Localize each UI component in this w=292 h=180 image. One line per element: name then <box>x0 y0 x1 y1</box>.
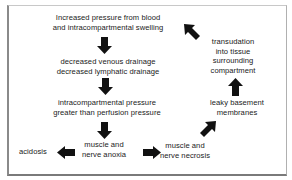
node-leaky-membranes: leaky basement membranes <box>210 98 264 118</box>
node-text-line: acidosis <box>19 147 47 157</box>
arrow-up-icon <box>228 78 243 96</box>
arrow-down-icon <box>97 37 112 54</box>
node-text-line: intracompartmental pressure <box>53 98 161 108</box>
node-text-line: decreased lymphatic drainage <box>57 67 160 77</box>
node-text-line: surrounding <box>211 56 256 66</box>
node-increased-pressure: Increased pressure from blood and intrac… <box>53 13 163 33</box>
node-text-line: Increased pressure from blood <box>53 13 163 23</box>
node-text-line: leaky basement <box>210 98 264 108</box>
node-text-line: greater than perfusion pressure <box>53 108 161 118</box>
node-text-line: transudation <box>211 37 256 47</box>
node-text-line: compartment <box>211 66 256 76</box>
node-intracompartmental-pressure: intracompartmental pressure greater than… <box>53 98 161 118</box>
node-text-line: into tissue <box>211 47 256 57</box>
node-text-line: decreased venous drainage <box>57 57 160 67</box>
node-decreased-drainage: decreased venous drainage decreased lymp… <box>57 57 160 77</box>
node-acidosis: acidosis <box>19 147 47 157</box>
node-necrosis: muscle and nerve necrosis <box>160 141 210 161</box>
node-text-line: and intracompartmental swelling <box>53 23 163 33</box>
node-transudation: transudation into tissue surrounding com… <box>211 37 256 75</box>
arrow-up-right-icon <box>200 121 217 138</box>
node-text-line: nerve necrosis <box>160 151 210 161</box>
arrow-up-left-icon <box>183 24 200 41</box>
arrow-down-icon <box>97 122 112 139</box>
arrow-left-icon <box>57 146 75 159</box>
arrow-right-icon <box>143 146 161 159</box>
node-text-line: nerve anoxia <box>82 150 126 160</box>
arrow-down-icon <box>98 78 113 95</box>
node-anoxia: muscle and nerve anoxia <box>82 140 126 160</box>
node-text-line: membranes <box>210 108 264 118</box>
node-text-line: muscle and <box>160 141 210 151</box>
node-text-line: muscle and <box>82 140 126 150</box>
